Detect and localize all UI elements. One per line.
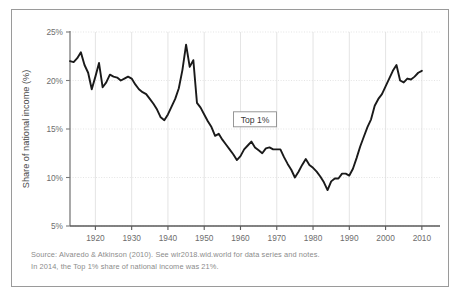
x-tick-label: 1970 — [268, 233, 287, 243]
y-tick-label: 10% — [46, 173, 63, 183]
chart-plot-area: 5%10%15%20%25%19201930194019501960197019… — [12, 10, 448, 257]
x-tick-label: 1930 — [122, 233, 141, 243]
y-tick-label: 15% — [46, 124, 63, 134]
y-tick-label: 25% — [46, 27, 63, 37]
figure-frame: 5%10%15%20%25%19201930194019501960197019… — [11, 9, 449, 287]
footer-note-line: In 2014, the Top 1% share of national in… — [31, 261, 431, 273]
x-tick-label: 2000 — [376, 233, 395, 243]
x-tick-label: 1960 — [231, 233, 250, 243]
annotation-label: Top 1% — [241, 115, 270, 125]
x-tick-label: 1980 — [304, 233, 323, 243]
x-tick-label: 2010 — [413, 233, 432, 243]
chart-footer: Source: Alvaredo & Atkinson (2010). See … — [31, 249, 431, 273]
footer-source-line: Source: Alvaredo & Atkinson (2010). See … — [31, 249, 431, 261]
y-tick-label: 5% — [51, 221, 64, 231]
x-tick-label: 1950 — [195, 233, 214, 243]
x-tick-label: 1990 — [340, 233, 359, 243]
line-chart-svg: 5%10%15%20%25%19201930194019501960197019… — [12, 10, 448, 257]
x-tick-label: 1920 — [86, 233, 105, 243]
y-axis-title: Share of national income (%) — [21, 70, 31, 188]
y-tick-label: 20% — [46, 76, 63, 86]
x-tick-label: 1940 — [159, 233, 178, 243]
